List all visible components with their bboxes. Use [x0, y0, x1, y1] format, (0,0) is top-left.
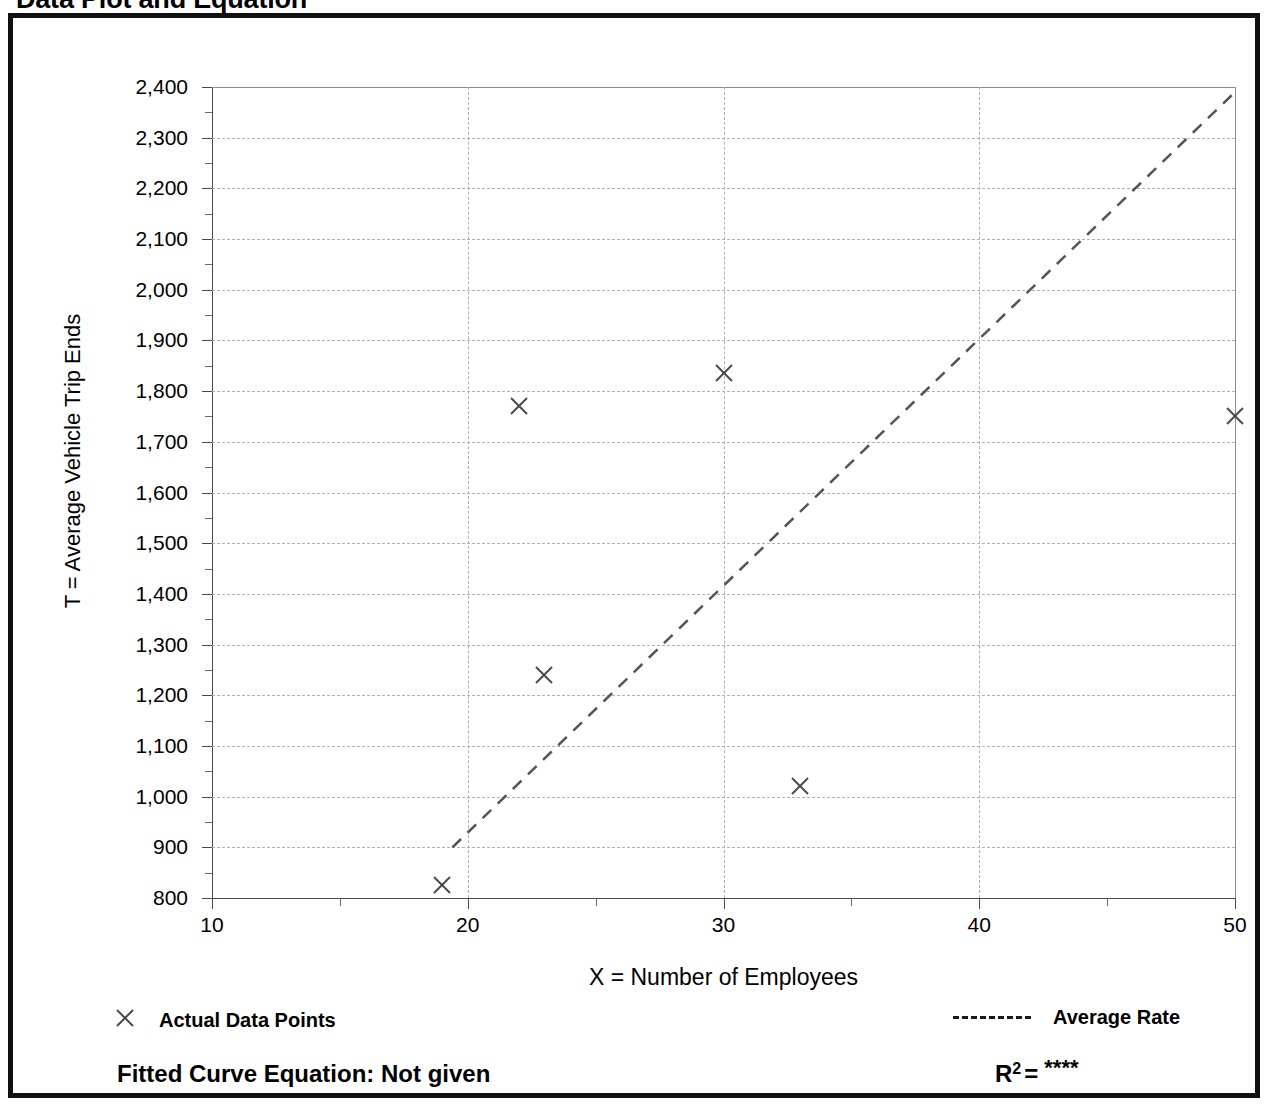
y-tick-label: 800 [98, 887, 188, 908]
plot-area [212, 87, 1235, 898]
y-tick-label: 1,500 [98, 532, 188, 553]
r-squared-value: R2=**** [995, 1060, 1079, 1088]
legend: Actual Data Points Average Rate [13, 1006, 1265, 1052]
y-tick-major [202, 898, 212, 899]
y-tick-major [202, 543, 212, 544]
y-tick-minor [205, 214, 212, 215]
x-tick-label: 10 [200, 914, 223, 936]
y-tick-minor [205, 112, 212, 113]
y-tick-minor [205, 467, 212, 468]
y-tick-label: 2,100 [98, 228, 188, 249]
y-tick-major [202, 188, 212, 189]
x-axis-line [212, 898, 1235, 899]
y-tick-label: 1,100 [98, 735, 188, 756]
y-tick-minor [205, 315, 212, 316]
y-tick-major [202, 87, 212, 88]
legend-label-actual-data-points: Actual Data Points [159, 1009, 336, 1032]
x-tick-major [212, 898, 213, 909]
y-tick-major [202, 695, 212, 696]
y-tick-minor [205, 416, 212, 417]
x-tick-major [724, 898, 725, 909]
y-axis-title: T = Average Vehicle Trip Ends [60, 111, 86, 811]
r-symbol: R [995, 1060, 1012, 1088]
y-tick-major [202, 340, 212, 341]
legend-item-average-rate: Average Rate [953, 1006, 1180, 1029]
y-tick-major [202, 797, 212, 798]
legend-label-average-rate: Average Rate [1053, 1006, 1180, 1029]
y-tick-label: 1,400 [98, 583, 188, 604]
y-tick-minor [205, 569, 212, 570]
x-tick-major [468, 898, 469, 909]
x-tick-label: 30 [712, 914, 735, 936]
y-tick-major [202, 746, 212, 747]
x-axis-title: X = Number of Employees [212, 964, 1235, 991]
y-tick-major [202, 138, 212, 139]
y-tick-major [202, 847, 212, 848]
y-tick-minor [205, 366, 212, 367]
x-marker-icon [113, 1006, 137, 1034]
y-tick-label: 1,700 [98, 431, 188, 452]
y-tick-minor [205, 619, 212, 620]
fitted-curve-equation: Fitted Curve Equation: Not given [117, 1060, 490, 1088]
y-tick-major [202, 290, 212, 291]
x-tick-minor [1107, 898, 1108, 906]
y-tick-major [202, 594, 212, 595]
x-tick-label: 40 [968, 914, 991, 936]
y-tick-label: 2,200 [98, 177, 188, 198]
y-tick-major [202, 442, 212, 443]
y-tick-label: 2,000 [98, 279, 188, 300]
y-tick-major [202, 645, 212, 646]
r-value: **** [1044, 1055, 1078, 1081]
y-tick-label: 1,300 [98, 634, 188, 655]
chart-frame: T = Average Vehicle Trip Ends 8009001,00… [8, 13, 1260, 1098]
x-tick-label: 50 [1223, 914, 1246, 936]
y-tick-major [202, 239, 212, 240]
y-tick-minor [205, 264, 212, 265]
y-tick-label: 1,600 [98, 482, 188, 503]
x-tick-major [979, 898, 980, 909]
y-tick-label: 1,800 [98, 380, 188, 401]
y-tick-major [202, 493, 212, 494]
x-tick-minor [596, 898, 597, 906]
y-tick-minor [205, 518, 212, 519]
equation-row: Fitted Curve Equation: Not given R2=**** [13, 1060, 1265, 1108]
y-tick-label: 1,000 [98, 786, 188, 807]
y-tick-label: 2,400 [98, 76, 188, 97]
y-tick-minor [205, 163, 212, 164]
y-tick-minor [205, 670, 212, 671]
y-tick-major [202, 391, 212, 392]
right-axis-line [1235, 87, 1236, 898]
legend-item-actual-data-points: Actual Data Points [113, 1006, 336, 1034]
average-rate-trend-line [212, 87, 1235, 898]
dashed-line-icon [953, 1016, 1031, 1019]
y-tick-label: 900 [98, 836, 188, 857]
y-tick-minor [205, 822, 212, 823]
y-tick-minor [205, 873, 212, 874]
y-tick-label: 1,900 [98, 329, 188, 350]
y-tick-label: 2,300 [98, 127, 188, 148]
x-tick-major [1235, 898, 1236, 909]
y-tick-label: 1,200 [98, 684, 188, 705]
x-tick-label: 20 [456, 914, 479, 936]
y-tick-minor [205, 721, 212, 722]
r-exponent: 2 [1012, 1060, 1021, 1078]
y-tick-minor [205, 771, 212, 772]
x-tick-minor [851, 898, 852, 906]
r-equals-sign: = [1024, 1060, 1038, 1088]
x-tick-minor [340, 898, 341, 906]
